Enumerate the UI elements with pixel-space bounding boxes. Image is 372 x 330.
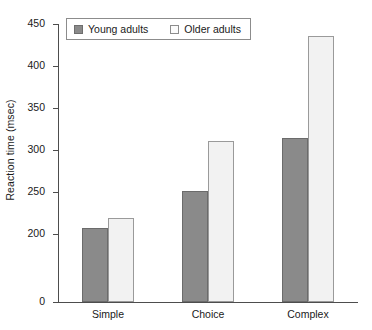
y-tick-350: 350 — [53, 108, 58, 109]
older-adults-swatch-icon — [170, 25, 179, 34]
x-tick-label-complex: Complex — [287, 308, 328, 320]
plot-area: 450 400 350 300 250 200 0 Young adults — [58, 0, 372, 330]
y-tick-400: 400 — [53, 66, 58, 67]
y-tick-label-200: 200 — [27, 227, 45, 239]
y-tick-label-300: 300 — [27, 143, 45, 155]
y-tick-300: 300 — [53, 150, 58, 151]
bar-group-complex — [282, 24, 334, 302]
bar-group-choice — [182, 24, 234, 302]
y-axis-title: Reaction time (msec) — [0, 0, 20, 300]
x-tick-label-simple: Simple — [92, 308, 124, 320]
x-axis-line — [58, 302, 358, 303]
bar-simple-older-adults — [108, 218, 134, 302]
x-tick-label-choice: Choice — [192, 308, 225, 320]
y-tick-250: 250 — [53, 192, 58, 193]
y-tick-450: 450 — [53, 24, 58, 25]
y-tick-label-400: 400 — [27, 59, 45, 71]
y-tick-200: 200 — [53, 234, 58, 235]
y-tick-0: 0 — [53, 302, 58, 303]
y-tick-label-250: 250 — [27, 185, 45, 197]
bar-choice-young-adults — [182, 191, 208, 302]
bar-complex-older-adults — [308, 36, 334, 302]
bar-choice-older-adults — [208, 141, 234, 302]
y-axis-line — [58, 24, 59, 302]
y-tick-label-450: 450 — [27, 17, 45, 29]
bar-group-simple — [82, 24, 134, 302]
bar-simple-young-adults — [82, 228, 108, 302]
bar-complex-young-adults — [282, 138, 308, 302]
bar-chart: Reaction time (msec) 450 400 350 300 250… — [0, 0, 372, 330]
y-axis-title-text: Reaction time (msec) — [4, 99, 16, 200]
y-tick-label-350: 350 — [27, 101, 45, 113]
y-tick-label-0: 0 — [39, 295, 45, 307]
